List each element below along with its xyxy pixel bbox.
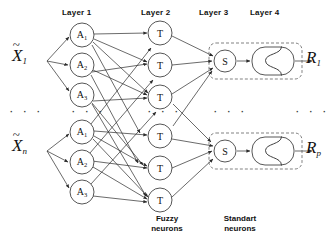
rp-base: R <box>306 138 316 157</box>
node-t1-bot-text: T <box>157 131 163 142</box>
layer-2-label: Layer 2 <box>141 8 170 17</box>
node-a2-bot-text: A2 <box>77 156 87 168</box>
tilde-accent-icon: ~ <box>11 127 21 143</box>
standart-neurons-line1: Standart <box>214 214 266 224</box>
node-s-top-text: S <box>222 56 228 67</box>
tilde-accent-icon: ~ <box>11 37 21 53</box>
node-t1-top-text: T <box>157 28 163 39</box>
sigmoid-top-box <box>252 47 294 75</box>
node-a1-top-text: A1 <box>77 29 87 41</box>
layer-1-label: Layer 1 <box>62 8 91 17</box>
node-a2-top-text: A2 <box>77 59 87 71</box>
standart-neurons-line2: neurons <box>214 224 266 234</box>
x1-subscript: 1 <box>22 56 27 66</box>
node-t2-bot-text: T <box>157 163 163 174</box>
node-t2-top-text: T <box>157 60 163 71</box>
input-xn-label: X~n <box>12 136 27 156</box>
output-rp-label: Rp <box>306 138 321 158</box>
ellipsis-outputs: · · · <box>296 107 330 117</box>
node-t3-bot-text: T <box>157 195 163 206</box>
fuzzy-neural-network-diagram: Layer 1 Layer 2 Layer 3 Layer 4 X~1 X~n … <box>0 0 332 247</box>
node-a3-top-text: A3 <box>77 89 87 101</box>
fuzzy-neurons-line1: Fuzzy <box>144 214 190 224</box>
xn-base: X~ <box>12 136 22 156</box>
r1-subscript: 1 <box>316 58 321 68</box>
layer-4-label: Layer 4 <box>250 8 279 17</box>
fuzzy-neurons-caption: Fuzzy neurons <box>144 214 190 234</box>
ellipsis-layer2: · · · <box>148 107 182 117</box>
r1-base: R <box>306 48 316 67</box>
xn-subscript: n <box>22 146 27 156</box>
network-graph <box>0 0 332 247</box>
output-r1-label: R1 <box>306 48 321 68</box>
sigmoid-box-group <box>252 47 294 165</box>
node-t3-top-text: T <box>157 92 163 103</box>
x1-base: X~ <box>12 46 22 66</box>
ellipsis-layer3: · · · <box>214 107 248 117</box>
standart-neurons-caption: Standart neurons <box>214 214 266 234</box>
sigmoid-bot-box <box>252 137 294 165</box>
ellipsis-layer1: · · · <box>72 107 106 117</box>
input-x1-label: X~1 <box>12 46 27 66</box>
node-a1-bot-text: A1 <box>77 126 87 138</box>
layer-3-label: Layer 3 <box>199 8 228 17</box>
node-s-bot-text: S <box>222 146 228 157</box>
rp-subscript: p <box>316 148 321 158</box>
ellipsis-inputs: · · · <box>10 107 44 117</box>
node-a3-bot-text: A3 <box>77 186 87 198</box>
fuzzy-neurons-line2: neurons <box>144 224 190 234</box>
